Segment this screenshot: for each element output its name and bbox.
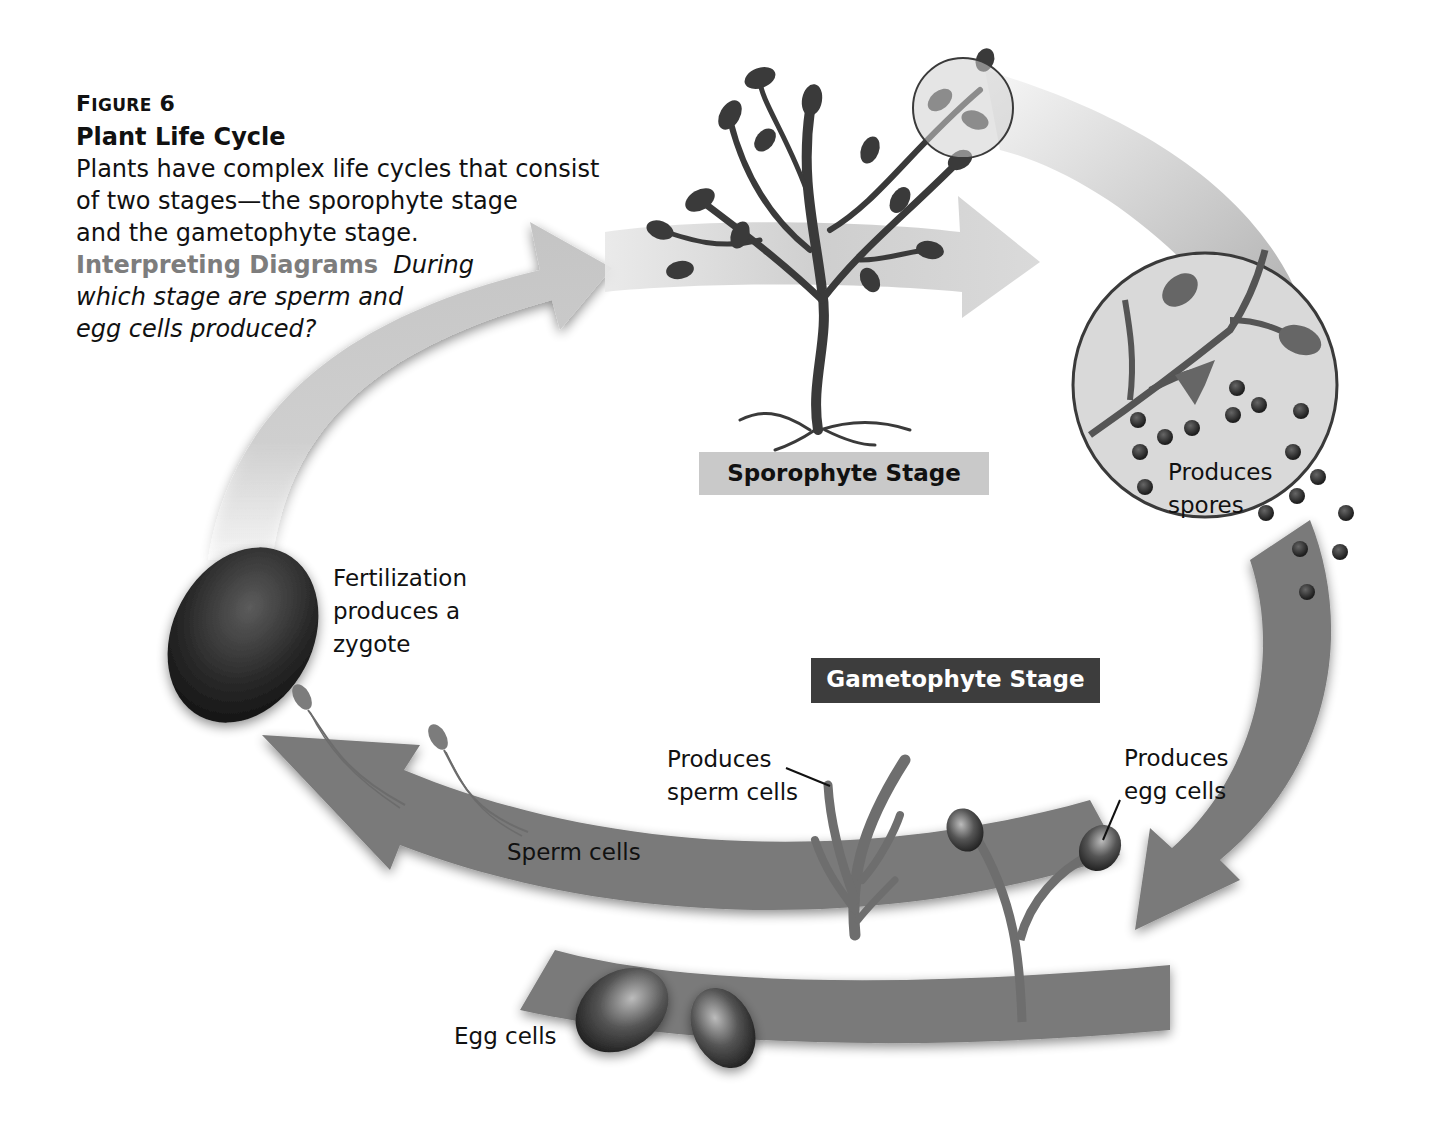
figure-title: Plant Life Cycle — [76, 121, 616, 153]
caption-question-line-3: egg cells produced? — [76, 313, 616, 345]
caption-body-line-2: of two stages—the sporophyte stage — [76, 185, 616, 217]
magnify-circle-small — [913, 58, 1013, 158]
arrow-spores-to-gametophyte — [1135, 520, 1331, 930]
figure-label: FIGURE 6 — [76, 88, 616, 121]
label-fertilization: Fertilizationproduces azygote — [333, 562, 467, 661]
zygote — [138, 521, 348, 749]
label-produces-spores: Producesspores — [1168, 456, 1272, 522]
caption-body-line-3: and the gametophyte stage. — [76, 217, 616, 249]
figure-caption: FIGURE 6 Plant Life Cycle Plants have co… — [76, 88, 616, 345]
caption-body-line-1: Plants have complex life cycles that con… — [76, 153, 616, 185]
label-egg-cells: Egg cells — [454, 1020, 557, 1053]
label-produces-egg-cells: Producesegg cells — [1124, 742, 1228, 808]
gametophyte-stage-label: Gametophyte Stage — [811, 658, 1100, 703]
label-produces-sperm-cells: Producessperm cells — [667, 743, 798, 809]
caption-question-line-2: which stage are sperm and — [76, 281, 616, 313]
label-sperm-cells: Sperm cells — [507, 836, 641, 869]
caption-question-line-1: Interpreting Diagrams During — [76, 249, 616, 281]
interpreting-diagrams-label: Interpreting Diagrams — [76, 251, 378, 279]
sporophyte-stage-label: Sporophyte Stage — [699, 452, 989, 495]
